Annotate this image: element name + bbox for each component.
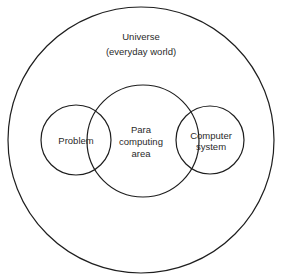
universe-label-line1: Universe — [122, 31, 160, 42]
problem-label: Problem — [58, 135, 93, 146]
para-computing-label-line2: computing — [119, 136, 163, 147]
computer-system-label-line1: Computer — [190, 130, 232, 141]
venn-diagram: Universe (everyday world) Problem Para c… — [0, 0, 282, 280]
universe-label-line2: (everyday world) — [106, 46, 176, 57]
para-computing-label-line1: Para — [131, 124, 152, 135]
computer-system-label-line2: system — [196, 141, 226, 152]
para-computing-label-line3: area — [131, 148, 151, 159]
